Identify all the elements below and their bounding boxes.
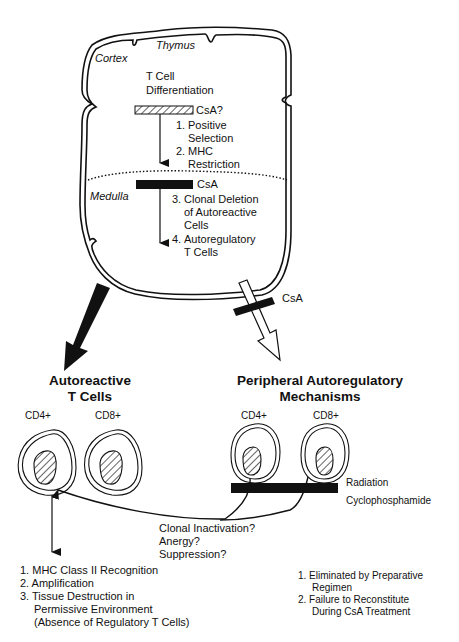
- step-4-num: 4.: [172, 233, 181, 246]
- step-4-line1: Autoregulatory: [184, 233, 256, 246]
- peripheral-title-line2: Mechanisms: [200, 389, 440, 405]
- autoreactive-outcome-1: 1. MHC Class II Recognition: [20, 564, 158, 577]
- autoreactive-outcome-3-cont: Permissive Environment: [34, 603, 153, 616]
- suppression-label: Suppression?: [159, 548, 226, 561]
- autoreactive-title-line2: T Cells: [45, 389, 135, 405]
- step-2-num: 2.: [176, 145, 185, 158]
- csa-medulla-label: CsA: [197, 178, 218, 191]
- cell-autoreactive-cd4: [18, 430, 76, 495]
- step-3-line3: Cells: [184, 219, 208, 232]
- cell-peripheral-cd4: [231, 424, 280, 483]
- cyclophosphamide-label: Cyclophosphamide: [346, 494, 431, 507]
- step-1-line1: Positive: [188, 119, 227, 132]
- clonal-inactivation-label: Clonal Inactivation?: [159, 522, 255, 535]
- csa-peripheral-label: CsA: [282, 292, 303, 305]
- peripheral-title-line1: Peripheral Autoregulatory: [200, 373, 440, 389]
- cell-autoreactive-cd8: [85, 430, 142, 495]
- step-3-line1: Clonal Deletion: [184, 193, 259, 206]
- autoreactive-title-line1: Autoreactive: [45, 373, 135, 389]
- corticomedullary-boundary: [88, 171, 287, 180]
- step-3-line2: of Autoreactive: [184, 206, 257, 219]
- peripheral-pathway-arrow: [239, 280, 280, 360]
- peripheral-cd8-label: CD8+: [313, 409, 339, 422]
- step-3-num: 3.: [172, 193, 181, 206]
- autoreactive-cd4-label: CD4+: [25, 409, 51, 422]
- thymus-label: Thymus: [156, 39, 195, 52]
- step-2-line1: MHC: [188, 145, 213, 158]
- medulla-label: Medulla: [90, 190, 129, 203]
- csa-partial-block-bar: [135, 106, 193, 114]
- cell-peripheral-cd8: [301, 424, 349, 483]
- peripheral-outcome-2-cont: During CsA Treatment: [312, 605, 410, 618]
- diagram-canvas: [0, 0, 459, 642]
- csa-question-label: CsA?: [196, 104, 223, 117]
- step-1-line2: Selection: [188, 132, 233, 145]
- differentiation-label-line1: T Cell: [146, 70, 175, 83]
- radiation-label: Radiation: [346, 476, 388, 489]
- step-1-num: 1.: [176, 119, 185, 132]
- anergy-label: Anergy?: [159, 535, 200, 548]
- peripheral-cd4-label: CD4+: [241, 409, 267, 422]
- csa-block-bar: [136, 180, 193, 189]
- autoreactive-pathway-arrow: [64, 283, 110, 371]
- cortex-label: Cortex: [95, 52, 127, 65]
- differentiation-label-line2: Differentiation: [146, 84, 214, 97]
- autoreactive-outcome-2: 2. Amplification: [20, 577, 94, 590]
- autoreactive-outcome-3: 3. Tissue Destruction in: [20, 590, 134, 603]
- autoreactive-outcome-3-note: (Absence of Regulatory T Cells): [34, 616, 190, 629]
- step-4-line2: T Cells: [184, 246, 218, 259]
- step-2-line2: Restriction: [188, 158, 240, 171]
- autoreactive-cd8-label: CD8+: [95, 409, 121, 422]
- radiation-cyclophosphamide-block-bar: [231, 483, 338, 493]
